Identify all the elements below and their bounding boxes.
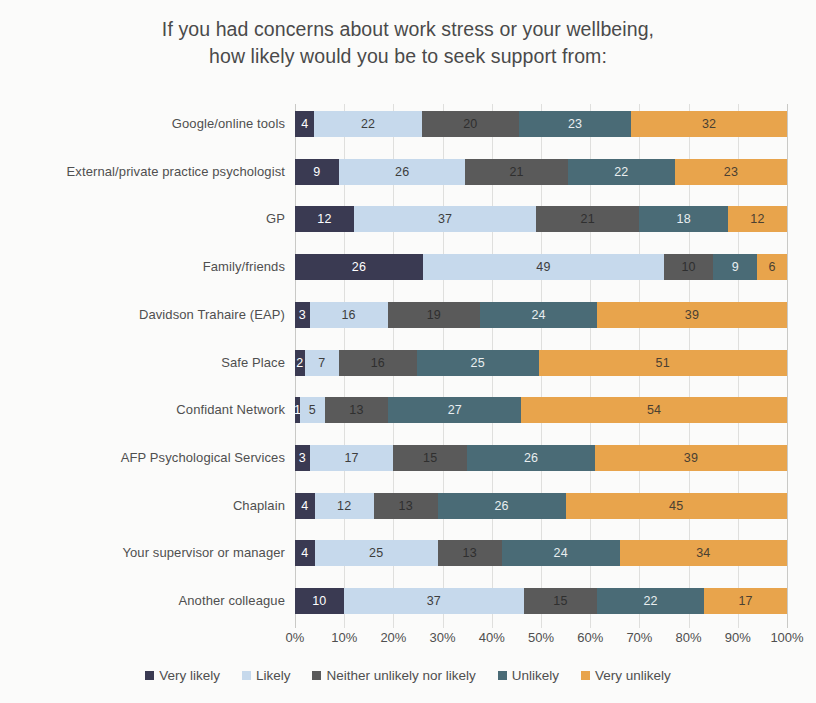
gridline-100pct xyxy=(787,104,788,628)
bar-segment: 13 xyxy=(325,397,389,423)
category-label: Confidant Network xyxy=(0,397,285,423)
bar-segment-value: 22 xyxy=(643,594,657,608)
legend-swatch-icon xyxy=(581,671,590,680)
bar-segment-value: 39 xyxy=(685,308,699,322)
bar-segment-value: 22 xyxy=(614,165,628,179)
bar-segment-value: 13 xyxy=(462,546,476,560)
bar-segment-value: 15 xyxy=(553,594,567,608)
category-label: Safe Place xyxy=(0,350,285,376)
bar-segment: 21 xyxy=(465,159,567,185)
stacked-bar-row: 926212223 xyxy=(295,159,787,185)
axis-tick-label: 80% xyxy=(676,630,702,645)
bar-segment: 12 xyxy=(295,206,354,232)
bar-segment-value: 26 xyxy=(524,451,538,465)
bar-segment-value: 12 xyxy=(337,499,351,513)
bar-segment-value: 17 xyxy=(738,594,752,608)
stacked-bar-row: 317152639 xyxy=(295,445,787,471)
bar-segment: 26 xyxy=(467,445,595,471)
bar-segment: 23 xyxy=(519,111,631,137)
bar-segment: 7 xyxy=(305,350,339,376)
bar-segment: 17 xyxy=(310,445,394,471)
stacked-bar-row: 1037152217 xyxy=(295,588,787,614)
bar-segment: 24 xyxy=(480,302,597,328)
legend-label: Neither unlikely nor likely xyxy=(326,668,475,683)
bar-segment: 12 xyxy=(315,493,374,519)
category-label: Your supervisor or manager xyxy=(0,540,285,566)
bar-segment-value: 54 xyxy=(647,403,661,417)
bar-segment: 49 xyxy=(423,254,664,280)
bar-segment-value: 12 xyxy=(750,212,764,226)
bar-segment: 25 xyxy=(417,350,539,376)
legend-item[interactable]: Very likely xyxy=(145,668,220,683)
bar-segment-value: 9 xyxy=(732,260,739,274)
bar-segment: 2 xyxy=(295,350,305,376)
bar-segment-value: 16 xyxy=(371,356,385,370)
bar-segment: 51 xyxy=(539,350,787,376)
axis-tick-label: 40% xyxy=(479,630,505,645)
bar-segment-value: 10 xyxy=(312,594,326,608)
bar-segment-value: 17 xyxy=(344,451,358,465)
bar-segment-value: 37 xyxy=(427,594,441,608)
bar-segment: 10 xyxy=(664,254,713,280)
axis-tick-label: 100% xyxy=(770,630,803,645)
chart-title: If you had concerns about work stress or… xyxy=(0,16,816,70)
axis-tick-label: 10% xyxy=(331,630,357,645)
bar-segment-value: 13 xyxy=(399,499,413,513)
bar-segment: 22 xyxy=(314,111,421,137)
bar-segment-value: 15 xyxy=(423,451,437,465)
bar-segment: 23 xyxy=(675,159,787,185)
bar-segment-value: 7 xyxy=(318,356,325,370)
legend-item[interactable]: Very unlikely xyxy=(581,668,671,683)
axis-tick-label: 60% xyxy=(577,630,603,645)
stacked-bar-row: 15132754 xyxy=(295,397,787,423)
chart-title-line-1: If you had concerns about work stress or… xyxy=(0,16,816,43)
bar-segment-value: 3 xyxy=(299,308,306,322)
bar-segment-value: 22 xyxy=(361,117,375,131)
bar-segment-value: 21 xyxy=(581,212,595,226)
bar-segment: 25 xyxy=(315,540,438,566)
bar-segment: 15 xyxy=(393,445,467,471)
axis-tick-label: 20% xyxy=(380,630,406,645)
bar-segment: 21 xyxy=(536,206,639,232)
bar-segment-value: 16 xyxy=(341,308,355,322)
bar-segment: 18 xyxy=(639,206,728,232)
bar-segment-value: 12 xyxy=(317,212,331,226)
legend-swatch-icon xyxy=(312,671,321,680)
category-label: Davidson Trahaire (EAP) xyxy=(0,302,285,328)
bar-segment-value: 5 xyxy=(309,403,316,417)
bar-segment: 26 xyxy=(438,493,566,519)
stacked-bar-row: 412132645 xyxy=(295,493,787,519)
bar-segment-value: 20 xyxy=(463,117,477,131)
legend-item[interactable]: Unlikely xyxy=(498,668,559,683)
bar-segment: 5 xyxy=(300,397,325,423)
legend-item[interactable]: Neither unlikely nor likely xyxy=(312,668,475,683)
bar-segment-value: 34 xyxy=(696,546,710,560)
bar-segment: 37 xyxy=(354,206,536,232)
legend-swatch-icon xyxy=(498,671,507,680)
value-axis: 0%10%20%30%40%50%60%70%80%90%100% xyxy=(295,630,787,650)
bar-segment: 24 xyxy=(502,540,620,566)
bar-segment: 45 xyxy=(566,493,787,519)
bar-segment: 39 xyxy=(595,445,787,471)
bar-segment: 3 xyxy=(295,445,310,471)
bar-segment-value: 26 xyxy=(352,260,366,274)
bar-segment-value: 25 xyxy=(369,546,383,560)
legend-label: Unlikely xyxy=(512,668,559,683)
bar-segment: 3 xyxy=(295,302,310,328)
bar-segment: 22 xyxy=(597,588,704,614)
bar-segment: 4 xyxy=(295,493,315,519)
legend-swatch-icon xyxy=(242,671,251,680)
bar-segment: 32 xyxy=(631,111,787,137)
legend-item[interactable]: Likely xyxy=(242,668,291,683)
bar-segment-value: 32 xyxy=(702,117,716,131)
bar-segment-value: 9 xyxy=(313,165,320,179)
plot-area: 4222023329262122231237211812264910963161… xyxy=(295,104,787,628)
bar-segment: 16 xyxy=(310,302,388,328)
bar-segment: 9 xyxy=(295,159,339,185)
chart-page: If you had concerns about work stress or… xyxy=(0,0,816,703)
bar-segment-value: 51 xyxy=(656,356,670,370)
bar-segment-value: 24 xyxy=(554,546,568,560)
bar-segment: 26 xyxy=(295,254,423,280)
bar-segment: 27 xyxy=(388,397,521,423)
category-label: Another colleague xyxy=(0,588,285,614)
